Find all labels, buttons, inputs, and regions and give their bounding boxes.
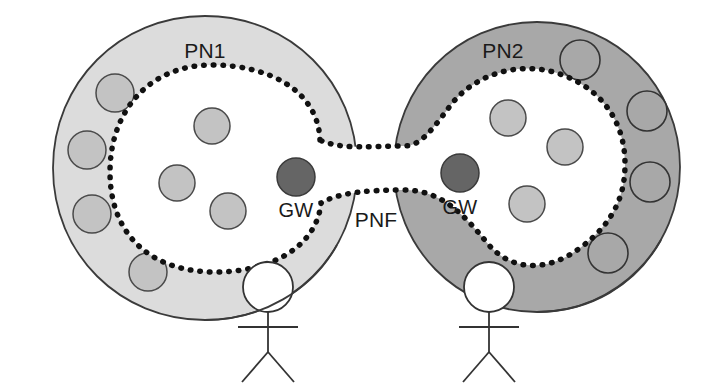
pn2-outer-node-2[interactable] [627, 91, 667, 131]
actor-leg-left [242, 352, 268, 382]
pn1-inner-node-3[interactable] [210, 193, 246, 229]
pnf-label: PNF [355, 208, 398, 231]
pn1-outer-node-3[interactable] [73, 195, 111, 233]
pn2-label: PN2 [482, 39, 523, 62]
pn1-inner-node-1[interactable] [194, 108, 230, 144]
pn2-outer-node-3[interactable] [630, 162, 670, 202]
actor-leg-right [268, 352, 294, 382]
diagram-canvas: PN1 PN2 GW GW PNF [0, 0, 727, 391]
actor-pn2[interactable] [459, 262, 519, 382]
pn2-inner-node-2[interactable] [547, 129, 583, 165]
actor-head-icon [243, 262, 293, 312]
pn1-label: PN1 [184, 39, 225, 62]
pn1-outer-node-2[interactable] [68, 131, 106, 169]
pn2-gateway-label: GW [443, 196, 478, 218]
pn2-inner-node-1[interactable] [490, 100, 526, 136]
pn2-inner-node-3[interactable] [509, 186, 545, 222]
network-federation-diagram: PN1 PN2 GW GW PNF [0, 0, 727, 391]
pn2-outer-node-1[interactable] [560, 40, 600, 80]
pn1-inner-node-2[interactable] [159, 165, 195, 201]
actor-head-icon [464, 262, 514, 312]
actor-pn1[interactable] [238, 262, 298, 382]
pn1-gateway-label: GW [279, 199, 314, 221]
pn1-gateway-node[interactable] [277, 158, 315, 196]
actor-leg-left [463, 352, 489, 382]
actor-leg-right [489, 352, 515, 382]
pn2-gateway-node[interactable] [441, 154, 479, 192]
